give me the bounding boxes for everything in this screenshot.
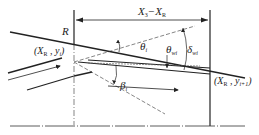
label-beta-i: βi <box>120 80 127 92</box>
paren-close: ) <box>248 75 251 86</box>
coord-y-sub: i+1 <box>239 81 248 87</box>
dim-b: X <box>155 5 162 17</box>
delta-sub: wi <box>192 50 198 56</box>
inflow-arrow <box>8 66 60 80</box>
label-delta-wi: δwi <box>187 44 198 56</box>
label-inlet-point: (XR , yi) <box>34 46 64 57</box>
outflow-arrow <box>108 86 178 90</box>
theta-sub: i <box>145 47 147 53</box>
comma: , <box>47 45 55 56</box>
dim-a: X <box>138 5 145 17</box>
label-outlet-point: (XR , yi+1) <box>214 76 251 87</box>
dimension-arrow-right-icon <box>201 18 208 23</box>
paren-close: ) <box>61 45 64 56</box>
theta-sub: wi <box>171 50 177 56</box>
label-theta-i: θi <box>140 41 147 53</box>
label-R: R <box>62 26 69 37</box>
label-theta-wi: θwi <box>166 44 177 56</box>
dim-b-sub: R <box>162 12 166 18</box>
dimension-arrow-left-icon <box>76 18 83 23</box>
diagram-lines <box>0 0 259 135</box>
beta-sub: i <box>125 86 127 92</box>
comma: , <box>227 75 235 86</box>
flow-geometry-diagram: R X3−XR (XR , yi) (XR , yi+1) θi θwi δwi… <box>0 0 259 135</box>
label-dimension: X3−XR <box>138 6 166 18</box>
